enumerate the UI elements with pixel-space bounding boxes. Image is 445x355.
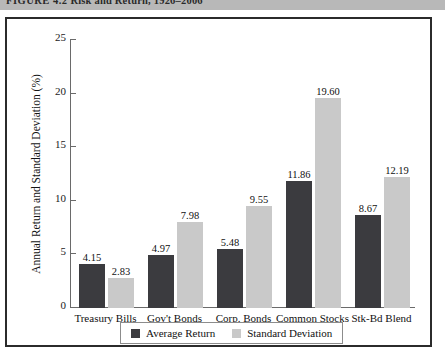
bar-value-label: 4.15 [83,252,101,263]
bar-standard-deviation[interactable]: 2.83 [108,278,134,308]
legend-item[interactable]: Average Return [131,327,215,339]
bar-value-label: 12.19 [385,165,409,176]
y-axis-tick: 10 [32,200,76,201]
y-axis-tick-label: 10 [55,192,66,204]
y-axis-tick: 5 [32,253,76,254]
bar-group: 4.977.98Gov't Bonds [140,40,209,308]
bar-value-label: 19.60 [316,86,340,97]
bar-value-label: 11.86 [287,169,310,180]
bar-value-label: 7.98 [181,210,199,221]
bar-standard-deviation[interactable]: 9.55 [246,206,272,308]
y-axis-tick: 20 [32,93,76,94]
bar-series-layer: 4.152.83Treasury Bills4.977.98Gov't Bond… [71,40,415,308]
figure-caption-band: FIGURE 4.2 Risk and Return, 1926–2006 [0,0,445,10]
y-axis-tick: 15 [32,146,76,147]
bar-average-return[interactable]: 5.48 [217,249,243,308]
legend-swatch-icon [232,329,241,338]
bar-group: 5.489.55Corp. Bonds [209,40,278,308]
y-axis-tick-label: 15 [55,138,66,150]
x-axis-category-label: Stk-Bd Blend [351,312,411,324]
y-axis-tick-label: 25 [55,31,66,43]
bar-average-return[interactable]: 11.86 [286,181,312,308]
bar-standard-deviation[interactable]: 7.98 [177,222,203,308]
bar-group: 11.8619.60Common Stocks [278,40,347,308]
legend-label: Standard Deviation [247,327,332,339]
bar-value-label: 2.83 [112,266,130,277]
y-axis-tick: 25 [32,39,76,40]
y-axis-tick-label: 5 [61,245,67,257]
chart-plot-area: Annual Return and Standard Deviation (%)… [70,40,415,308]
y-axis-tick: 0 [32,307,76,308]
figure-caption-label: FIGURE 4.2 [6,0,68,6]
y-axis-title: Annual Return and Standard Deviation (%) [28,40,44,308]
bar-value-label: 5.48 [221,237,239,248]
bar-average-return[interactable]: 4.97 [148,255,174,308]
legend-label: Average Return [146,327,215,339]
bar-standard-deviation[interactable]: 19.60 [315,98,341,308]
figure-caption-title: Risk and Return, 1926–2006 [70,0,202,6]
bar-group: 8.6712.19Stk-Bd Blend [347,40,416,308]
figure-frame: Annual Return and Standard Deviation (%)… [5,17,432,347]
bar-standard-deviation[interactable]: 12.19 [384,177,410,308]
bar-average-return[interactable]: 4.15 [79,264,105,308]
y-axis-tick-label: 0 [61,299,67,311]
legend-item[interactable]: Standard Deviation [232,327,332,339]
chart-legend: Average ReturnStandard Deviation [120,322,343,344]
bar-value-label: 9.55 [250,194,268,205]
y-axis-tick-label: 20 [55,85,66,97]
bar-average-return[interactable]: 8.67 [355,215,381,308]
legend-swatch-icon [131,329,140,338]
figure-caption-text: FIGURE 4.2 Risk and Return, 1926–2006 [6,0,203,6]
bar-value-label: 4.97 [152,243,170,254]
bar-group: 4.152.83Treasury Bills [71,40,140,308]
bar-value-label: 8.67 [359,203,377,214]
